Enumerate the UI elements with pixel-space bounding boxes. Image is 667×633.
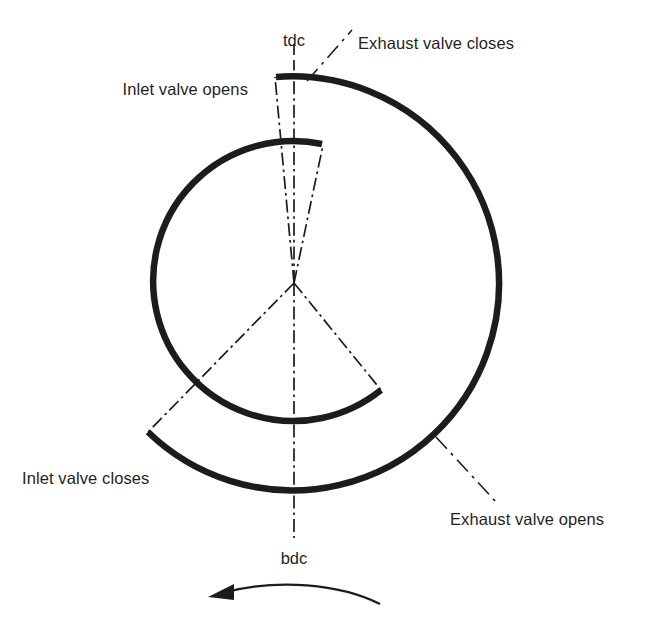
inlet-valve-closes-radial-line [148, 283, 294, 432]
inlet-valve-opens-radial-line [275, 77, 294, 283]
inlet-valve-closes-label: Inlet valve closes [22, 469, 149, 487]
exhaust-valve-opens-radial-line [294, 283, 381, 390]
valve-timing-diagram: tdc bdc Inlet valve opens Exhaust valve … [0, 0, 667, 633]
rotation-arrow-curve [222, 585, 380, 604]
exhaust-open-arc [148, 76, 499, 490]
exhaust-valve-closes-label: Exhaust valve closes [358, 34, 514, 52]
inlet-valve-opens-label: Inlet valve opens [122, 80, 248, 98]
bdc-label: bdc [281, 549, 308, 567]
exhaust-valve-opens-label: Exhaust valve opens [450, 510, 604, 528]
tdc-label: tdc [283, 31, 305, 49]
inlet-open-arc [153, 141, 381, 421]
exhaust-valve-closes-radial-line [294, 145, 323, 283]
exhaust-valve-closes-leader [307, 30, 352, 81]
exhaust-valve-opens-leader [436, 437, 497, 503]
timing-diagram-canvas: tdc bdc Inlet valve opens Exhaust valve … [0, 0, 667, 633]
rotation-arrow-head [208, 584, 234, 600]
